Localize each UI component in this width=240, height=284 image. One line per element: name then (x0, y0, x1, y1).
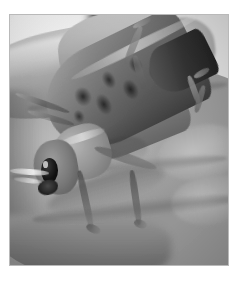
grasshopper-on-hand-photo (10, 15, 228, 265)
vignette-overlay (10, 15, 228, 265)
photo-frame (9, 14, 229, 266)
page-root: Large grasshopper resting on an open hum… (0, 0, 240, 284)
